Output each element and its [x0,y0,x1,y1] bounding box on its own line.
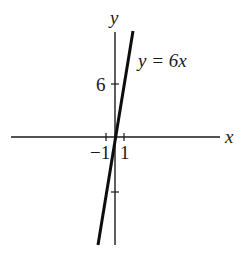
y-axis-label: y [110,8,118,27]
x-tick-label-neg1: −1 [90,143,110,162]
x-axis-label: x [225,127,233,146]
equation-label: y = 6x [138,51,187,70]
y-tick-label-6: 6 [96,75,106,94]
x-tick-label-pos1: 1 [120,143,130,162]
plot-area [0,0,244,255]
